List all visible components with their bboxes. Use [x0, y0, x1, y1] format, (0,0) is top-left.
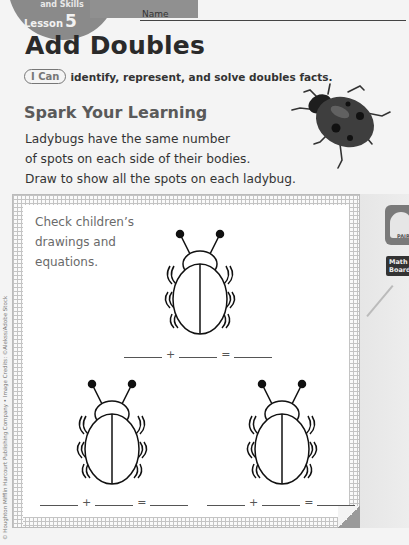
addend-blank[interactable]	[40, 500, 78, 506]
equals-sign: =	[304, 496, 313, 509]
lesson-number: 5	[65, 11, 77, 31]
addend-blank[interactable]	[179, 352, 217, 358]
ladybug-outline-1[interactable]	[160, 222, 240, 337]
pairs-label: PAIRS	[397, 233, 409, 239]
equation-row-2: + =	[36, 496, 192, 509]
ladybug-photo	[290, 82, 400, 177]
i-can-statement: I Can identify, represent, and solve dou…	[24, 69, 333, 84]
lesson-number-label: Lesson5	[24, 11, 77, 31]
name-field[interactable]	[140, 20, 406, 21]
grid-border-right	[349, 195, 359, 527]
badge-subtitle: and Skills	[32, 0, 92, 9]
grid-border-bottom	[13, 517, 359, 527]
teacher-note-line: drawings and	[35, 232, 134, 252]
addend-blank[interactable]	[124, 352, 162, 358]
grid-border-top	[13, 195, 359, 205]
lesson-label: Lesson	[24, 18, 63, 29]
page-title: Add Doubles	[25, 31, 205, 60]
prompt-line: Draw to show all the spots on each ladyb…	[25, 169, 296, 189]
i-can-pill: I Can	[24, 69, 66, 84]
equation-row-1: + =	[120, 348, 276, 361]
equals-sign: =	[137, 496, 146, 509]
equation-row-3: + =	[203, 496, 359, 509]
section-heading: Spark Your Learning	[24, 103, 207, 122]
prompt-text: Ladybugs have the same number of spots o…	[25, 129, 296, 189]
name-label: Name	[142, 9, 169, 19]
teacher-note: Check children’s drawings and equations.	[35, 212, 134, 272]
prompt-line: Ladybugs have the same number	[25, 129, 296, 149]
plus-sign: +	[249, 496, 258, 509]
mathboard-label: Math	[389, 258, 409, 266]
ladybug-outline-2[interactable]	[72, 372, 152, 487]
mathboard-tab: Math Board	[386, 256, 409, 276]
grid-border-left	[13, 195, 23, 527]
teacher-note-line: equations.	[35, 252, 134, 272]
sum-blank[interactable]	[317, 500, 355, 506]
page-curl	[338, 506, 360, 528]
plus-sign: +	[82, 496, 91, 509]
mathboard-label: Board	[389, 266, 409, 274]
addend-blank[interactable]	[207, 500, 245, 506]
prompt-line: of spots on each side of their bodies.	[25, 149, 296, 169]
plus-sign: +	[166, 348, 175, 361]
ladybug-outline-3[interactable]	[242, 372, 322, 487]
addend-blank[interactable]	[95, 500, 133, 506]
i-can-text: identify, represent, and solve doubles f…	[70, 71, 332, 83]
copyright-credit: © Houghton Mifflin Harcourt Publishing C…	[2, 296, 8, 540]
teacher-note-line: Check children’s	[35, 212, 134, 232]
addend-blank[interactable]	[262, 500, 300, 506]
sum-blank[interactable]	[150, 500, 188, 506]
equals-sign: =	[221, 348, 230, 361]
sum-blank[interactable]	[234, 352, 272, 358]
